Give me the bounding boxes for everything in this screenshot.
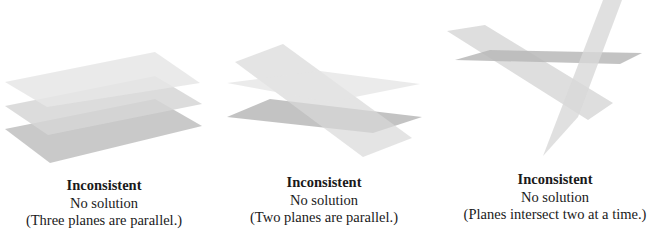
panel-3-subtitle: No solution <box>455 189 655 207</box>
panel-3-title: Inconsistent <box>455 171 655 189</box>
panel-1-caption: Inconsistent No solution (Three planes a… <box>4 177 204 230</box>
panel-2-subtitle: No solution <box>224 192 424 210</box>
panel-1-planes <box>5 52 202 163</box>
panel-1-subtitle: No solution <box>4 195 204 213</box>
panel-2-caption: Inconsistent No solution (Two planes are… <box>224 174 424 227</box>
panel-3-description: (Planes intersect two at a time.) <box>455 206 655 224</box>
panel-3-planes <box>447 0 642 156</box>
panel-3-caption: Inconsistent No solution (Planes interse… <box>455 171 655 224</box>
panel-2-title: Inconsistent <box>224 174 424 192</box>
plane-horizontal <box>455 50 642 64</box>
panel-1-title: Inconsistent <box>4 177 204 195</box>
panel-1-description: (Three planes are parallel.) <box>4 212 204 230</box>
panel-2-description: (Two planes are parallel.) <box>224 209 424 227</box>
panel-2-planes <box>227 44 422 157</box>
